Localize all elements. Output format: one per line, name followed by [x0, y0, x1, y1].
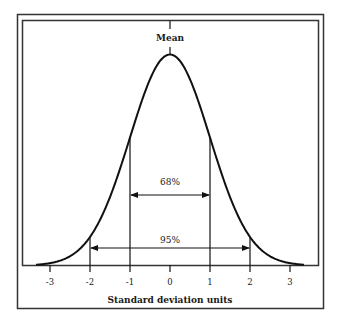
label-95-percent: 95% [160, 235, 180, 245]
tick-label: -2 [86, 277, 94, 287]
x-axis-title: Standard deviation units [108, 295, 233, 305]
outer-frame [18, 15, 324, 309]
plot-frame [23, 21, 319, 266]
tick-label: -3 [46, 277, 54, 287]
tick-label: 0 [167, 277, 172, 287]
bell-curve [36, 55, 304, 265]
normal-distribution-chart: Mean 68% 95% -3 -2 -1 0 1 2 3 Standard d… [0, 0, 341, 321]
label-68-percent: 68% [160, 177, 180, 187]
tick-label: -1 [126, 277, 134, 287]
mean-label: Mean [156, 33, 185, 43]
x-axis-tick-labels: -3 -2 -1 0 1 2 3 [46, 277, 293, 287]
tick-label: 2 [247, 277, 252, 287]
tick-label: 3 [287, 277, 292, 287]
tick-label: 1 [207, 277, 212, 287]
